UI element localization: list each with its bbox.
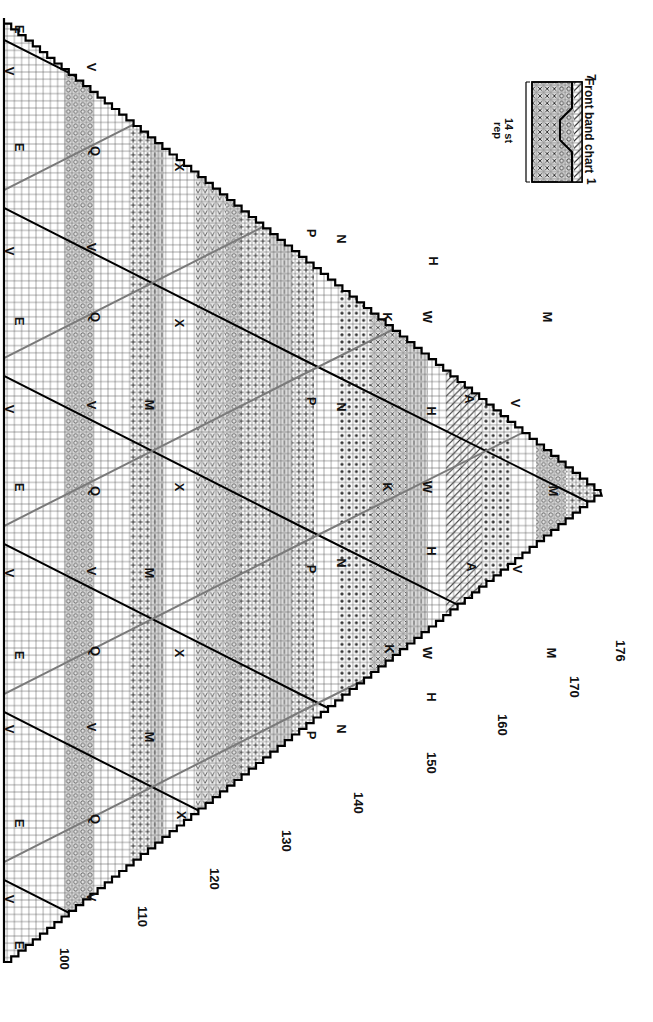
colour-key-letter: W [420,310,434,324]
colour-key-letter: V [2,244,16,258]
colour-key-letter: H [426,254,440,268]
colour-key-letter: H [424,404,438,418]
colour-key-letter: Q [88,310,102,324]
row-number-label: 160 [495,714,510,736]
colour-key-letter: X [172,160,186,174]
colour-key-letter: M [546,484,560,498]
row-number-label: 140 [351,792,366,814]
colour-key-letter: V [2,64,16,78]
legend-repeat-label: 14 st rep [492,118,514,143]
colour-key-letter: P [304,226,318,240]
colour-key-letter: A [464,560,478,574]
colour-key-letter: V [2,566,16,580]
colour-key-letter: Q [88,644,102,658]
colour-key-letter: M [540,310,554,324]
colour-key-letter: V [84,890,98,904]
colour-key-letter: K [380,310,394,324]
colour-key-letter: Q [88,812,102,826]
legend-row-end: 7 [584,74,598,81]
colour-key-letter: X [172,316,186,330]
colour-key-letter: X [172,646,186,660]
row-number-label: 120 [207,868,222,890]
colour-key-letter: E [12,314,26,328]
colour-key-letter: X [172,480,186,494]
row-number-label: 150 [424,752,439,774]
row-number-label: 170 [567,676,582,698]
colour-key-letter: Q [88,484,102,498]
colour-key-letter: Q [88,144,102,158]
colour-key-letter: E [12,480,26,494]
colour-key-letter: E [12,140,26,154]
colour-key-letter: V [508,396,522,410]
colour-key-letter: P [304,562,318,576]
colour-key-letter: X [174,808,188,822]
colour-key-letter: W [420,480,434,494]
row-number-label: 176 [613,640,628,662]
colour-key-letter: M [544,646,558,660]
colour-key-letter: M [142,398,156,412]
colour-key-letter: K [380,480,394,494]
colour-key-letter: P [304,728,318,742]
legend-title: Front band chart [582,78,596,173]
colour-key-letter: V [84,720,98,734]
colour-key-letter: E [12,938,26,952]
row-number-label: 110 [135,906,150,927]
colour-key-letter: N [334,556,348,570]
colour-key-letter: V [2,892,16,906]
colour-key-letter: P [304,394,318,408]
legend-repeat-count: 14 st [503,118,515,143]
colour-key-letter: M [142,730,156,744]
colour-key-letter: V [84,564,98,578]
colour-key-letter: V [2,402,16,416]
colour-key-letter: M [142,566,156,580]
colour-key-letter: W [420,646,434,660]
colour-key-letter: A [462,392,476,406]
colour-key-letter: N [334,232,348,246]
row-number-label: 130 [279,830,294,852]
colour-key-letter: V [84,60,98,74]
colour-key-letter: H [424,690,438,704]
row-number-label: 100 [57,948,72,970]
colour-key-letter: E [12,22,26,36]
colour-key-letter: E [12,816,26,830]
legend-repeat-unit: rep [492,122,504,139]
colour-key-letter: K [382,642,396,656]
colour-key-letter: V [84,398,98,412]
colour-key-letter: N [334,400,348,414]
colour-key-letter: V [2,722,16,736]
colour-key-letter: N [334,722,348,736]
colour-key-letter: V [510,562,524,576]
legend-row-start: 1 [584,178,598,185]
colour-key-letter: V [84,240,98,254]
colour-key-letter: H [424,544,438,558]
colour-key-letter: E [12,648,26,662]
